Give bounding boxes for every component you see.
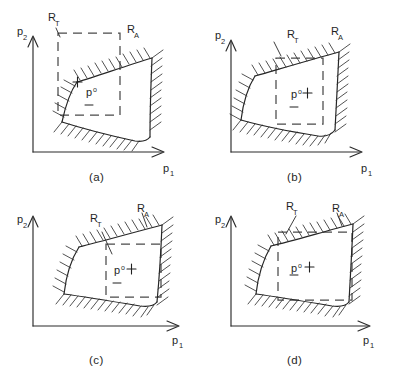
ra-left-edge-c [64, 247, 79, 294]
x-axis-label-sub-b: 1 [368, 169, 372, 178]
ra-right-edge-c [157, 225, 162, 302]
target-region-rect-d [278, 232, 352, 300]
rt-leader-line-b [274, 42, 281, 56]
operating-point-marker-d [305, 262, 314, 272]
panel-c-svg: p 2 p 1 R T R A p o (c) [0, 196, 198, 392]
target-region-label-sub-a: T [55, 19, 60, 28]
panel-caption-b: (b) [287, 171, 302, 183]
y-axis-label-sub-a: 2 [23, 33, 27, 42]
panel-caption-a: (a) [89, 171, 104, 183]
panel-b-svg: p 2 p 1 R T R A p o (b) [198, 0, 396, 196]
achievable-region-label-sub-b: A [338, 33, 343, 42]
panel-b: p 2 p 1 R T R A p o (b) [198, 0, 396, 196]
y-axis-label-sub-b: 2 [221, 37, 225, 46]
operating-point-label-c: p [114, 264, 120, 276]
x-axis-label-c: p [172, 334, 178, 346]
operating-point-superscript-c: o [121, 264, 125, 271]
achievable-region-label-sub-c: A [144, 210, 149, 219]
operating-point-superscript-b: o [298, 88, 302, 95]
figure-container: p 2 p 1 R T R A p o (a) [0, 0, 396, 392]
ra-left-edge-b [241, 76, 255, 120]
y-axis-label-sub-d: 2 [221, 221, 225, 230]
achievable-region-boundary-d [256, 224, 353, 306]
panel-a-svg: p 2 p 1 R T R A p o (a) [0, 0, 198, 196]
ra-left-edge-d [256, 246, 271, 294]
hatch-upper-c [76, 215, 159, 246]
x-axis-label-d: p [363, 334, 369, 346]
achievable-region-boundary-b [241, 52, 339, 136]
operating-point-label-a: p [86, 86, 92, 98]
operating-point-marker-b [303, 88, 312, 98]
axes-a [28, 36, 164, 157]
axes-d [226, 216, 370, 331]
target-region-label-sub-b: T [294, 36, 299, 45]
panel-a: p 2 p 1 R T R A p o (a) [0, 0, 198, 196]
x-axis-label-sub-d: 1 [370, 341, 374, 350]
y-axis-label-sub-c: 2 [23, 221, 27, 230]
x-axis-label-b: p [361, 162, 367, 174]
achievable-region-label-sub-d: A [339, 210, 344, 219]
operating-point-superscript-a: o [93, 86, 97, 93]
operating-point-label-d: p [291, 262, 297, 274]
hatch-right-c [157, 217, 173, 305]
axes-c [28, 216, 179, 331]
achievable-region-boundary-a [62, 58, 152, 141]
achievable-region-boundary-c [64, 225, 162, 306]
ra-lower-edge-a [62, 122, 150, 141]
hatch-upper-a [74, 48, 150, 80]
rt-leader-line-d [286, 216, 296, 234]
hatch-lower-a [54, 122, 139, 151]
operating-point-superscript-d: o [298, 262, 302, 269]
panel-d: p 2 p 1 R T R A p o (d) [198, 196, 396, 392]
x-axis-label-sub-a: 1 [170, 169, 174, 178]
x-axis-label-sub-c: 1 [179, 341, 183, 350]
target-region-label-sub-c: T [97, 220, 102, 229]
ra-left-edge-a [62, 82, 77, 122]
operating-point-marker-c [127, 264, 136, 274]
ra-upper-edge-a [77, 58, 152, 82]
rt-leader-line-c [102, 232, 112, 254]
panel-caption-c: (c) [89, 354, 104, 366]
ra-upper-edge-d [271, 224, 353, 246]
operating-point-label-b: p [291, 88, 297, 100]
x-axis-label-a: p [163, 162, 169, 174]
panel-caption-d: (d) [287, 354, 302, 366]
achievable-region-label-sub-a: A [134, 31, 139, 40]
panel-d-svg: p 2 p 1 R T R A p o (d) [198, 196, 396, 392]
target-region-label-sub-d: T [293, 208, 298, 217]
panel-c: p 2 p 1 R T R A p o (c) [0, 196, 198, 392]
